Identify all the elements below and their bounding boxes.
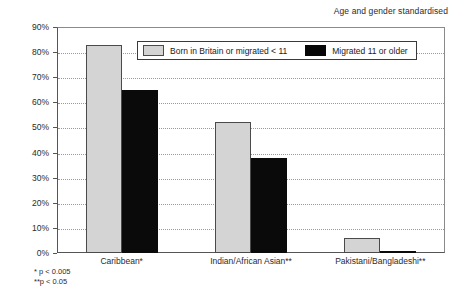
y-axis-label-20: 20%	[3, 198, 49, 208]
legend-label-1: Migrated 11 or older	[332, 46, 407, 56]
y-axis-label-10: 10%	[3, 223, 49, 233]
x-axis-label-2: Pakistani/Bangladeshi**	[335, 256, 425, 266]
bar-1-1	[251, 158, 287, 253]
footnotes: * p < 0.005 **p < 0.05	[34, 267, 71, 287]
bars-layer	[57, 27, 445, 253]
y-axis-label-0: 0%	[3, 248, 49, 258]
bar-2-1	[380, 251, 416, 254]
x-axis-label-1: Indian/African Asian**	[210, 256, 292, 266]
y-axis-label-40: 40%	[3, 148, 49, 158]
bar-0-0	[86, 45, 122, 253]
legend-swatch-light-icon	[143, 45, 164, 56]
y-axis-tick-0	[53, 253, 57, 254]
y-axis-label-90: 90%	[3, 22, 49, 32]
footnote-line-1: * p < 0.005	[34, 267, 71, 277]
x-axis: Caribbean*Indian/African Asian**Pakistan…	[57, 256, 445, 270]
y-axis-label-70: 70%	[3, 72, 49, 82]
chart-title: Age and gender standardised	[334, 6, 448, 16]
legend-item-1: Migrated 11 or older	[305, 45, 407, 56]
bar-1-0	[215, 122, 251, 253]
legend-swatch-dark-icon	[305, 45, 326, 56]
y-axis-label-50: 50%	[3, 122, 49, 132]
bar-chart: Age and gender standardised 90%80%70%60%…	[0, 0, 456, 294]
y-axis-label-80: 80%	[3, 47, 49, 57]
chart-legend: Born in Britain or migrated < 11 Migrate…	[137, 41, 417, 60]
y-axis-label-30: 30%	[3, 173, 49, 183]
x-axis-label-0: Caribbean*	[100, 256, 143, 266]
footnote-line-2: **p < 0.05	[34, 277, 71, 287]
legend-item-0: Born in Britain or migrated < 11	[143, 45, 287, 56]
bar-2-0	[344, 238, 380, 253]
legend-label-0: Born in Britain or migrated < 11	[170, 46, 287, 56]
bar-0-1	[122, 90, 158, 253]
y-axis-label-60: 60%	[3, 97, 49, 107]
